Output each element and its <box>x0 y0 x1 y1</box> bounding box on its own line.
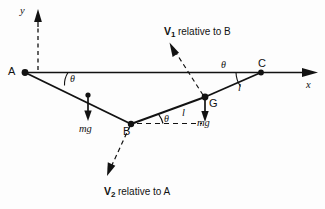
v2-qualifier: relative to A <box>118 186 170 197</box>
v2-subscript: 2 <box>111 190 115 199</box>
length-label-bg: l <box>182 108 185 119</box>
x-axis-arrowhead <box>302 68 318 77</box>
point-label-a: A <box>8 66 15 77</box>
segment-a-b <box>25 73 131 125</box>
angle-arc-at-a <box>64 73 68 86</box>
weight-label-g: mg <box>197 118 210 129</box>
y-axis-arrowhead <box>34 9 42 22</box>
point-label-c: C <box>258 58 266 69</box>
length-label-gc: l <box>238 83 241 94</box>
rigid-bar <box>25 73 261 125</box>
v2-arrowhead <box>107 162 115 176</box>
v1-dashed-shaft <box>176 52 204 95</box>
v1-arrowhead <box>170 43 180 57</box>
angle-label-at-c: θ <box>221 60 226 70</box>
point-label-b: B <box>123 126 130 137</box>
segment-g-c <box>205 73 261 98</box>
weight-label-midpoint-ab: mg <box>79 124 92 135</box>
diagram-canvas <box>0 0 325 209</box>
weight-arrowhead-ab <box>84 111 91 122</box>
v1-subscript: 1 <box>171 30 175 39</box>
weight-arrow-midpoint-ab <box>84 92 91 121</box>
angle-label-at-b: θ <box>164 114 169 124</box>
angle-label-at-a: θ <box>70 74 75 84</box>
velocity-vector-v1 <box>170 43 204 96</box>
x-axis <box>25 68 318 77</box>
point-label-g: G <box>209 98 218 109</box>
y-axis <box>34 9 42 70</box>
y-axis-label: y <box>20 6 25 17</box>
angle-arc-at-b <box>159 115 163 124</box>
velocity-label-v1: V1relative to B <box>164 26 231 39</box>
x-axis-label: x <box>306 80 311 91</box>
point-marker-a <box>22 69 29 76</box>
v1-symbol: V <box>164 25 171 37</box>
physics-diagram: y x A B C G θ θ θ l l mg mg V1relative t… <box>0 0 325 209</box>
v1-qualifier: relative to B <box>178 26 231 37</box>
v2-symbol: V <box>104 185 111 197</box>
velocity-label-v2: V2relative to A <box>104 186 170 199</box>
point-marker-c <box>258 70 264 76</box>
